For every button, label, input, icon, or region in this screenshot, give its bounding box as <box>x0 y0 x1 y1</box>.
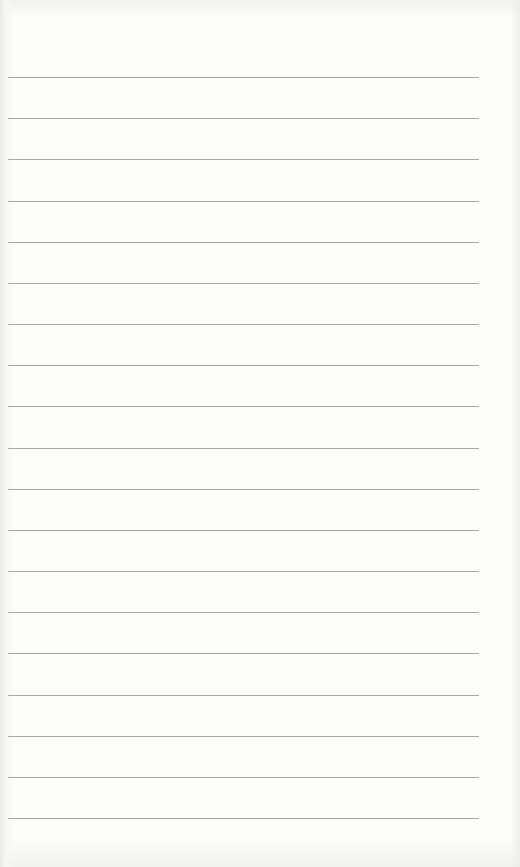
ruled-line <box>8 242 479 243</box>
ruled-paper-page <box>0 0 520 867</box>
ruled-line <box>8 489 479 490</box>
ruled-line <box>8 201 479 202</box>
ruled-line <box>8 736 479 737</box>
ruled-line <box>8 77 479 78</box>
ruled-line <box>8 653 479 654</box>
ruled-line <box>8 283 479 284</box>
ruled-line <box>8 365 479 366</box>
ruled-line <box>8 571 479 572</box>
ruled-line <box>8 777 479 778</box>
ruled-line <box>8 695 479 696</box>
ruled-line <box>8 530 479 531</box>
ruled-line <box>8 406 479 407</box>
ruled-line <box>8 324 479 325</box>
ruled-line <box>8 818 479 819</box>
ruled-line <box>8 448 479 449</box>
ruled-line <box>8 118 479 119</box>
ruled-line <box>8 159 479 160</box>
ruled-line <box>8 612 479 613</box>
